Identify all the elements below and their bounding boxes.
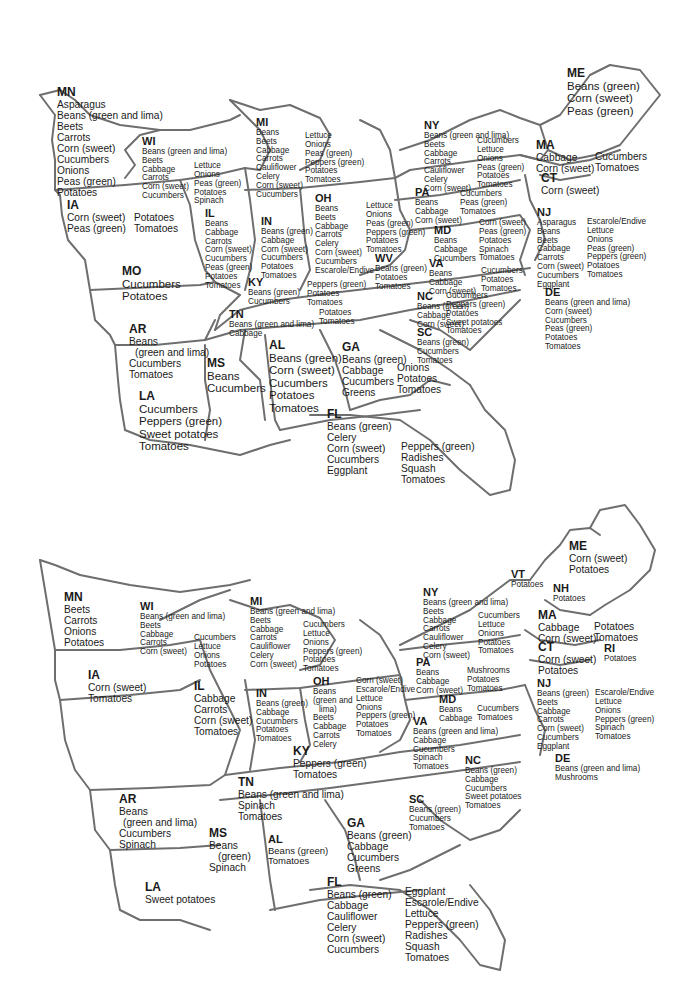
- crop-item: Tomatoes: [303, 665, 362, 674]
- crop-column: Beans(green andlima)BeetsCabbageCarrotsC…: [313, 688, 353, 750]
- crop-item: Tomatoes: [139, 440, 222, 452]
- crop-item: Cucumbers: [327, 454, 392, 465]
- crop-column: Beans (green and lima)Mushrooms: [555, 765, 640, 783]
- crop-item: Tomatoes: [594, 632, 638, 643]
- state-NH-bottom: NH Potatoes: [553, 583, 585, 604]
- state-GA-top-col2: OnionsPotatoesTomatoes: [397, 362, 441, 395]
- state-NJ-top: NJ AsparagusBeansBeetsCabbageCarrotsCorn…: [537, 207, 584, 290]
- crop-item: Potatoes: [134, 212, 178, 223]
- state-LA-bottom: LA Sweet potatoes: [145, 881, 215, 905]
- state-KY-bottom: KY Peppers (green)Tomatoes: [293, 745, 367, 780]
- crop-item: Cucumbers: [327, 944, 392, 955]
- crop-column: LettuceOnionsPeas (green)PotatoesSpinach: [194, 162, 241, 206]
- crop-item: Potatoes: [397, 373, 441, 384]
- state-abbr: IA: [67, 199, 178, 212]
- crop-column: Beans (green)Tomatoes: [268, 846, 328, 867]
- crop-item: Corn (sweet): [538, 654, 596, 665]
- crop-item: Eggplant: [537, 743, 589, 752]
- state-ME-top: ME Beans (green)Corn (sweet)Peas (green): [567, 67, 640, 117]
- crop-item: (green and lima): [129, 347, 209, 358]
- state-MI-top: MI BeansBeetsCabbageCarrotsCauliflowerCe…: [256, 117, 303, 200]
- crop-item: Sweet potatoes: [145, 894, 215, 905]
- crop-item: Lettuce: [405, 908, 479, 919]
- state-PA-top-col2: CucumbersPeas (green)Tomatoes: [460, 190, 507, 217]
- crop-column: Beans (green)Cucumbers: [248, 289, 300, 307]
- crop-item: Peppers (green): [401, 441, 475, 452]
- crop-item: Tomatoes: [401, 474, 475, 485]
- crop-column: Corn (sweet)Peas (green)PotatoesSpinachT…: [479, 219, 526, 263]
- crop-column: BeetsCarrotsOnionsPotatoes: [64, 604, 104, 648]
- state-GA-bottom: GA Beans (green)CabbageCucumbersGreens: [347, 817, 412, 874]
- crop-item: Cucumbers: [269, 377, 342, 389]
- state-NY-bottom-col2: CucumbersLettuceOnionsPotatoesTomatoes: [478, 612, 520, 656]
- crop-column: Corn (sweet)Escarole/EndiveLettuceOnions…: [356, 677, 415, 739]
- state-ME-bottom: ME Corn (sweet)Potatoes: [569, 540, 627, 575]
- state-abbr: MS: [207, 357, 266, 370]
- state-MN-bottom: MN BeetsCarrotsOnionsPotatoes: [64, 591, 104, 648]
- crop-column: Beans (green)CeleryCorn (sweet)Cucumbers…: [327, 421, 392, 476]
- state-NJ-bottom-col2: Escarole/EndiveLettuceOnionsPeppers (gre…: [595, 689, 654, 742]
- crop-item: Tomatoes: [397, 384, 441, 395]
- crop-item: Cabbage: [536, 152, 594, 163]
- crop-item: Tomatoes: [88, 693, 146, 704]
- crop-item: Cucumbers: [595, 151, 647, 162]
- crop-column: Beans (green)Corn (sweet)CucumbersPotato…: [269, 352, 342, 414]
- crop-item: Carrots: [64, 615, 104, 626]
- state-abbr: LA: [145, 881, 215, 894]
- state-IN-top: IN Beans (green)CabbageCorn (sweet)Cucum…: [261, 216, 313, 281]
- crop-item: Beans (green and lima): [238, 789, 344, 800]
- state-IL-top: IL BeansCabbageCarrotsCorn (sweet)Cucumb…: [205, 208, 252, 291]
- state-abbr: MN: [57, 86, 163, 99]
- crop-column: CucumbersLettuceOnionsPeppers (green)Pot…: [303, 621, 362, 674]
- crop-item: Potatoes: [604, 655, 636, 664]
- state-WI-bottom-col2: CucumbersLettuceOnionsPotatoes: [194, 634, 236, 669]
- crop-item: Beans (green): [567, 80, 640, 92]
- crop-column: Beans (green and lima)SpinachTomatoes: [238, 789, 344, 822]
- crop-item: (green and lima): [119, 817, 197, 828]
- crop-item: Potatoes: [511, 581, 543, 590]
- crop-column: CucumbersPeppers (green)Sweet potatoesTo…: [139, 403, 222, 453]
- state-LA-top: LA CucumbersPeppers (green)Sweet potatoe…: [139, 390, 222, 453]
- state-MA-bottom-col2: PotatoesTomatoes: [594, 621, 638, 643]
- crop-column: Potatoes: [511, 581, 543, 590]
- crop-item: Tomatoes: [194, 726, 252, 737]
- crop-column: CucumbersLettuceOnionsPotatoes: [194, 634, 236, 669]
- crop-column: Potatoes: [604, 655, 636, 664]
- crop-item: Tomatoes: [268, 856, 328, 866]
- state-abbr: MN: [64, 591, 104, 604]
- crop-item: Beans (green): [327, 889, 392, 900]
- state-OH-bottom: OH Beans(green andlima)BeetsCabbageCarro…: [313, 676, 353, 750]
- crop-item: Cucumbers: [248, 298, 300, 307]
- state-NJ-bottom: NJ Beans (green)BeetsCabbageCarrotsCorn …: [537, 678, 589, 752]
- crop-column: PotatoesTomatoes: [134, 212, 178, 234]
- crop-item: Cucumbers: [129, 358, 209, 369]
- crop-item: Corn (sweet): [567, 92, 640, 104]
- crop-item: Onions: [397, 362, 441, 373]
- state-OH-bottom-col2: Corn (sweet)Escarole/EndiveLettuceOnions…: [356, 677, 415, 739]
- crop-item: Tomatoes: [319, 318, 355, 327]
- crop-column: Beans (green)CucumbersTomatoes: [409, 806, 461, 833]
- state-abbr: MO: [122, 265, 181, 278]
- state-abbr: GA: [342, 341, 407, 354]
- state-abbr: FL: [327, 876, 392, 889]
- crop-column: LettuceOnionsPeas (green)Peppers (green)…: [305, 132, 364, 185]
- crop-column: MushroomsPotatoesTomatoes: [467, 667, 510, 694]
- crop-item: Tomatoes: [205, 282, 252, 291]
- state-MI-bottom-col2: CucumbersLettuceOnionsPeppers (green)Pot…: [303, 621, 362, 674]
- crop-item: Corn (sweet): [327, 933, 392, 944]
- crop-item: Tomatoes: [307, 299, 366, 308]
- crop-column: CucumbersPeas (green)Tomatoes: [460, 190, 507, 217]
- crop-item: Squash: [405, 941, 479, 952]
- state-KY-top: KY Beans (green)Cucumbers: [248, 277, 300, 307]
- crop-item: Tomatoes: [238, 811, 344, 822]
- state-PA-bottom: PA BeansCabbageCorn (sweet): [416, 657, 463, 695]
- crop-column: Corn (sweet)Potatoes: [569, 553, 627, 575]
- crop-column: Beans (green and lima)Cabbage: [229, 321, 314, 339]
- crop-item: Tomatoes: [305, 176, 364, 185]
- state-abbr: KY: [293, 745, 367, 758]
- crop-item: Carrots: [194, 704, 252, 715]
- state-abbr: AR: [129, 323, 209, 336]
- state-WV-top: WV Beans (green)PotatoesTomatoes: [375, 253, 427, 291]
- crop-item: Beans (green): [347, 830, 412, 841]
- crop-item: Tomatoes: [587, 271, 646, 280]
